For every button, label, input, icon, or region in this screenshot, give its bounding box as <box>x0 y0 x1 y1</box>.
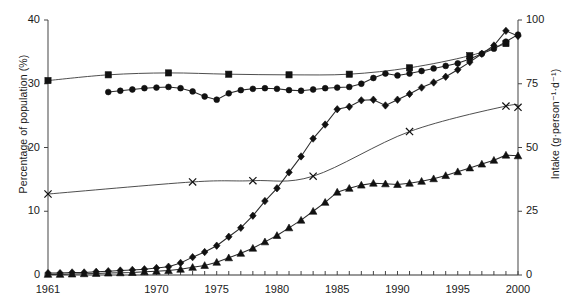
marker-triangle-series <box>309 207 317 214</box>
marker-triangle-series <box>285 224 293 231</box>
marker-circle-series <box>202 94 208 100</box>
marker-diamond-series <box>346 103 353 110</box>
marker-square-series <box>406 65 412 71</box>
marker-circle-series <box>214 97 220 103</box>
marker-circle-series <box>395 73 401 79</box>
marker-circle-series <box>358 81 364 87</box>
marker-square-series <box>45 77 51 83</box>
marker-circle-series <box>407 71 413 77</box>
marker-diamond-series <box>358 97 365 104</box>
marker-diamond-series <box>442 73 449 80</box>
marker-circle-series <box>443 63 449 69</box>
marker-diamond-series <box>394 96 401 103</box>
marker-diamond-series <box>454 66 461 73</box>
marker-circle-series <box>286 87 292 93</box>
marker-circle-series <box>503 39 509 45</box>
marker-square-series <box>286 72 292 78</box>
series-line-triangle-series <box>48 155 518 274</box>
marker-triangle-series <box>213 258 221 265</box>
plot-area <box>0 0 575 308</box>
marker-circle-series <box>154 85 160 91</box>
marker-circle-series <box>346 84 352 90</box>
marker-triangle-series <box>370 179 378 186</box>
marker-circle-series <box>142 85 148 91</box>
marker-circle-series <box>166 84 172 90</box>
marker-circle-series <box>105 89 111 95</box>
marker-diamond-series <box>201 248 208 255</box>
marker-square-series <box>346 71 352 77</box>
marker-triangle-series <box>225 254 233 261</box>
marker-circle-series <box>129 87 135 93</box>
marker-diamond-series <box>189 253 196 260</box>
marker-circle-series <box>322 85 328 91</box>
marker-circle-series <box>226 90 232 96</box>
marker-triangle-series <box>490 156 498 163</box>
marker-diamond-series <box>213 242 220 249</box>
marker-square-series <box>165 70 171 76</box>
marker-circle-series <box>334 85 340 91</box>
marker-circle-series <box>298 88 304 94</box>
marker-diamond-series <box>430 79 437 86</box>
marker-circle-series <box>419 68 425 74</box>
marker-triangle-series <box>502 151 510 158</box>
marker-circle-series <box>383 71 389 77</box>
marker-triangle-series <box>297 216 305 223</box>
marker-diamond-series <box>225 233 232 240</box>
marker-circle-series <box>274 86 280 92</box>
marker-circle-series <box>190 89 196 95</box>
marker-diamond-series <box>370 96 377 103</box>
series-line-square-series <box>48 44 506 81</box>
marker-square-series <box>105 72 111 78</box>
marker-circle-series <box>238 87 244 93</box>
marker-circle-series <box>117 88 123 94</box>
chart-container: Percentage of population (%) Intake (g·p… <box>0 0 575 308</box>
marker-circle-series <box>310 87 316 93</box>
marker-triangle-series <box>249 244 257 251</box>
marker-diamond-series <box>406 90 413 97</box>
marker-square-series <box>226 71 232 77</box>
marker-circle-series <box>250 86 256 92</box>
marker-circle-series <box>178 85 184 91</box>
marker-triangle-series <box>273 232 281 239</box>
marker-circle-series <box>431 66 437 72</box>
marker-circle-series <box>370 75 376 81</box>
marker-circle-series <box>262 85 268 91</box>
marker-circle-series <box>455 60 461 66</box>
marker-triangle-series <box>237 250 245 257</box>
marker-diamond-series <box>382 102 389 109</box>
marker-diamond-series <box>418 84 425 91</box>
marker-triangle-series <box>261 238 269 245</box>
